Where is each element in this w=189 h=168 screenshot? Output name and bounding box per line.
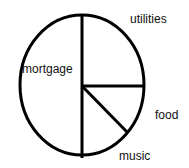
divider-food-music [82,86,127,132]
pie-chart: utilities mortgage food music [0,0,189,168]
label-mortgage: mortgage [22,63,73,75]
label-music: music [119,150,150,162]
label-food: food [155,109,178,121]
label-utilities: utilities [130,13,167,25]
